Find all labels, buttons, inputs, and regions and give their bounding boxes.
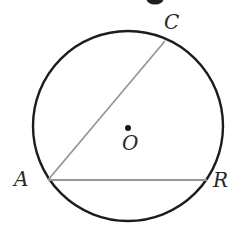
geometry-figure: A C R O	[0, 0, 236, 236]
label-center-o: O	[122, 131, 138, 155]
label-point-c: C	[164, 10, 179, 34]
circle-diagram-svg: A C R O	[0, 0, 236, 236]
figure-background	[0, 0, 236, 236]
label-point-r: R	[212, 168, 228, 192]
label-point-a: A	[12, 167, 28, 191]
